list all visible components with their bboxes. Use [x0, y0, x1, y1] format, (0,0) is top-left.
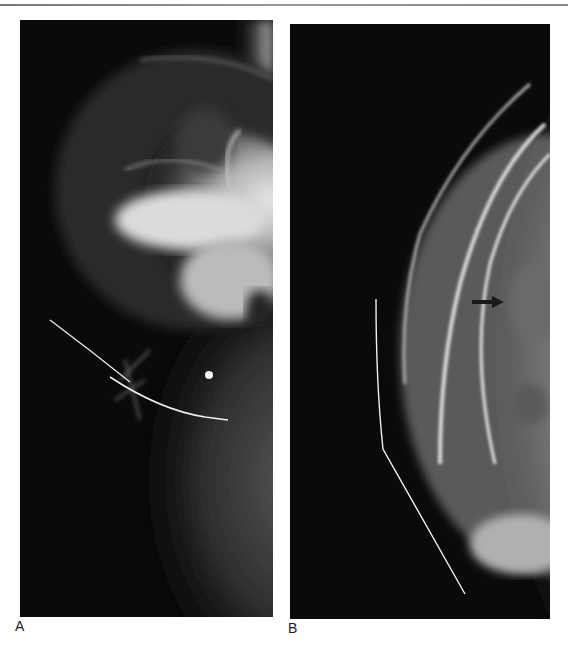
mammogram-image-b — [290, 24, 550, 619]
panel-label-b: B — [288, 620, 297, 636]
running-header-fragment: · · · — [145, 0, 189, 4]
top-rule-divider — [0, 4, 568, 6]
panel-label-a: A — [15, 618, 24, 634]
marker-dot — [205, 371, 213, 379]
mammogram-panel-b — [290, 24, 550, 619]
mammogram-image-a — [20, 20, 273, 617]
mammogram-panel-a — [20, 20, 273, 617]
